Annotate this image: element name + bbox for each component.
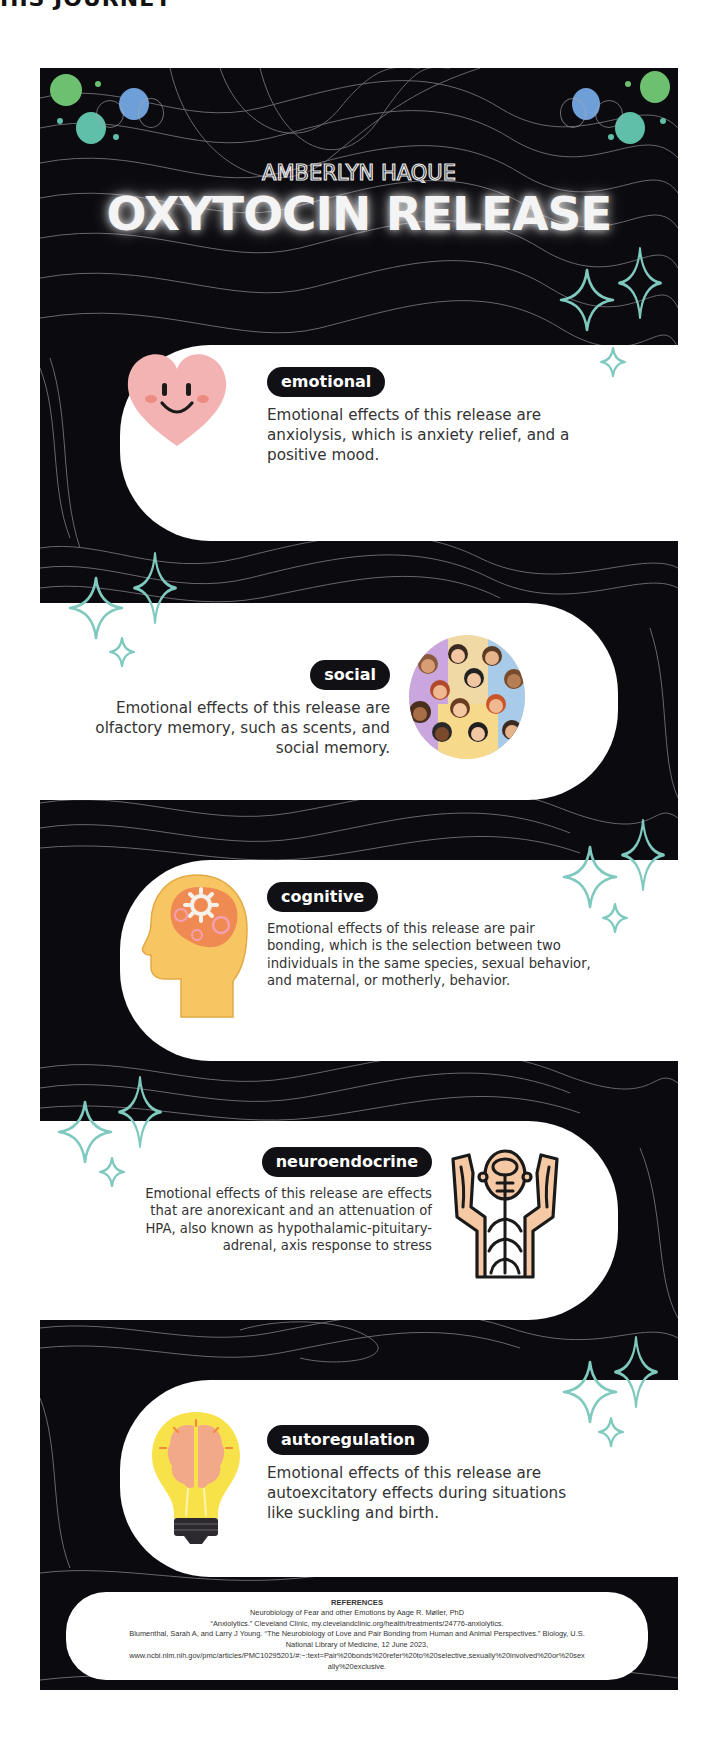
- sparkle-icon: [0, 0, 710, 1737]
